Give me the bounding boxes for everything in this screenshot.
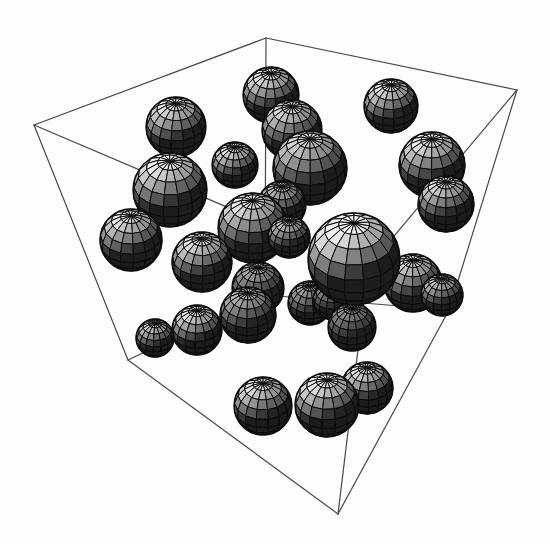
sphere-16 <box>421 274 463 316</box>
sphere-packing-figure <box>0 0 550 544</box>
figure-canvas <box>0 0 550 544</box>
sphere-5 <box>212 142 258 188</box>
sphere-21 <box>220 287 276 343</box>
sphere-13 <box>172 232 232 292</box>
sphere-11 <box>268 216 310 258</box>
sphere-1 <box>364 79 418 133</box>
sphere-22 <box>172 305 222 355</box>
sphere-20 <box>308 213 400 305</box>
sphere-2 <box>146 97 206 157</box>
sphere-25 <box>234 377 292 435</box>
figure-root <box>34 38 517 514</box>
sphere-23 <box>136 319 174 357</box>
sphere-19 <box>328 303 376 351</box>
sphere-12 <box>100 209 162 271</box>
sphere-8 <box>418 176 474 232</box>
sphere-26 <box>295 373 359 437</box>
